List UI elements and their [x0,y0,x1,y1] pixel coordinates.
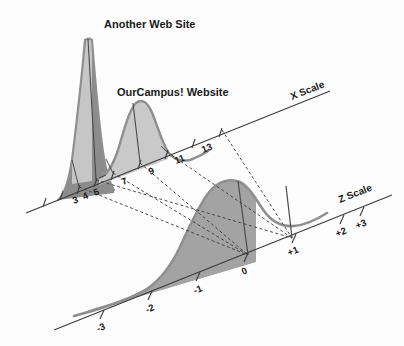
x-tick-label-11: 11 [173,152,187,166]
z-tick-label-0: 0 [240,265,249,277]
x-tick-13 [219,128,222,137]
z-vertical-line-plus1 [286,186,292,238]
x-tick-label-7: 7 [120,175,129,187]
z-scale-axis-label: Z Scale [337,182,374,205]
z-tick-label--3: -3 [95,321,107,334]
another-web-site-title: Another Web Site [104,18,195,30]
normal-distribution-figure: -3 -2 -1 0 +1 +2 +3 Z Scale [0,0,404,346]
x-scale-group: 3 4 5 7 9 11 13 X Scale [26,39,330,214]
z-tick-label-+1: +1 [286,243,301,257]
x-tick-11 [192,139,195,148]
figure-canvas: -3 -2 -1 0 +1 +2 +3 Z Scale [0,0,404,346]
z-tick-label-+3: +3 [354,217,368,231]
x-scale-axis-label: X Scale [289,78,327,101]
z-tick-label--1: -1 [192,282,205,296]
z-tick-+3 [360,207,364,216]
ourcampus-website-title: OurCampus! Website [117,86,229,98]
z-tick-+1 [292,234,296,243]
x-tick-label-13: 13 [200,141,214,155]
z-scale-group: -3 -2 -1 0 +1 +2 +3 Z Scale [54,180,392,334]
z-tick-+2 [340,215,344,224]
z-tick-label-+2: +2 [334,225,348,239]
z-tick-label--2: -2 [144,302,156,315]
ourcampus-curve-fill [99,101,168,185]
